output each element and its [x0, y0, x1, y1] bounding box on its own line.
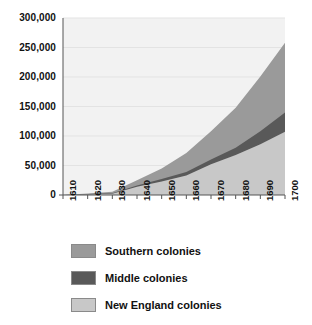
y-axis-tick-label: 50,000: [25, 160, 56, 171]
x-axis-tick-label: 1620: [92, 180, 103, 201]
y-axis-tick-label: 150,000: [19, 101, 56, 112]
stacked-area-chart: 050,000100,000150,000200,000250,000300,0…: [0, 0, 312, 325]
legend-item[interactable]: New England colonies: [71, 294, 222, 315]
legend-color-swatch: [71, 271, 96, 285]
x-axis-tick-label: 1610: [67, 180, 78, 201]
legend-color-swatch: [71, 298, 96, 312]
x-axis-tick-label: 1640: [141, 180, 152, 201]
x-axis-tick-label: 1680: [240, 180, 251, 201]
y-axis-tick-label: 250,000: [19, 42, 56, 53]
y-axis-tick-label: 300,000: [19, 12, 56, 23]
x-axis-tick-label: 1670: [215, 180, 226, 201]
legend-color-swatch: [71, 244, 96, 258]
legend-item[interactable]: Middle colonies: [71, 267, 222, 288]
chart-legend: Southern coloniesMiddle coloniesNew Engl…: [71, 240, 222, 315]
y-axis-tick-label: 0: [50, 189, 56, 200]
legend-label: Middle colonies: [105, 272, 188, 284]
legend-label: Southern colonies: [105, 245, 201, 257]
x-axis-tick-label: 1700: [289, 180, 300, 201]
legend-item[interactable]: Southern colonies: [71, 240, 222, 261]
x-axis-tick-label: 1690: [264, 180, 275, 201]
x-axis-tick-label: 1630: [116, 180, 127, 201]
legend-label: New England colonies: [105, 299, 222, 311]
x-axis-tick-label: 1650: [166, 180, 177, 201]
y-axis-tick-label: 200,000: [19, 71, 56, 82]
x-axis-tick-label: 1660: [190, 180, 201, 201]
y-axis-tick-label: 100,000: [19, 130, 56, 141]
